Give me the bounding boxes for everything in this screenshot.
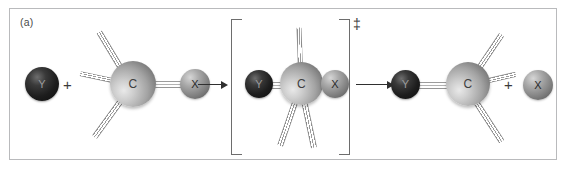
transition-state-carbon-atom: C (280, 62, 323, 105)
arrow-shaft (198, 84, 222, 85)
atom-label-y: Y (38, 79, 46, 90)
product-nucleophile-atom: Y (391, 70, 420, 99)
product-leaving-group-atom: X (523, 70, 553, 100)
plus-sign-products: + (504, 77, 513, 92)
atom-label-y-ts: Y (255, 79, 263, 90)
reactant-carbon-atom: C (110, 61, 156, 107)
reaction-arrow-2 (356, 80, 394, 89)
atom-label-c-product: C (464, 78, 473, 90)
reaction-mechanism-figure: (a) Y + C X ‡ Y C X (0, 0, 566, 176)
transition-state-bracket-left (231, 19, 242, 155)
atom-label-c-reactant: C (129, 78, 138, 90)
atom-label-y-product: Y (402, 79, 410, 90)
panel-label: (a) (20, 16, 33, 28)
atom-label-c-ts: C (297, 78, 306, 90)
atom-label-x-ts: X (331, 79, 339, 90)
product-carbon-atom: C (446, 62, 490, 106)
arrow-head (221, 81, 228, 89)
transition-state-leaving-group-atom: X (321, 70, 349, 98)
reaction-arrow-1 (198, 80, 228, 89)
transition-state-nucleophile-atom: Y (245, 70, 273, 98)
plus-sign-reactants: + (63, 77, 72, 92)
double-dagger-symbol: ‡ (353, 17, 361, 31)
atom-label-x-product: X (534, 80, 542, 91)
reactant-nucleophile-atom: Y (25, 67, 59, 101)
arrow-shaft (356, 84, 388, 85)
